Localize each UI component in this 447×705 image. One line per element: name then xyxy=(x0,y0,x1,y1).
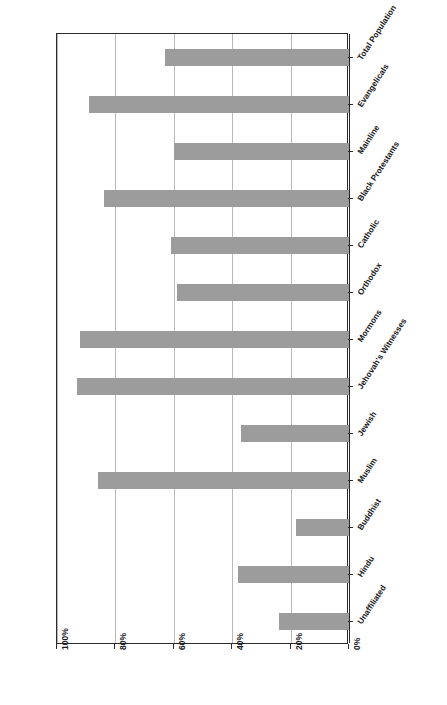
bar xyxy=(241,425,349,442)
value-tick xyxy=(290,644,291,649)
category-label-text: Catholic xyxy=(356,217,381,249)
category-label-text: Evangelicals xyxy=(356,62,391,109)
bar xyxy=(296,519,349,536)
bar xyxy=(77,378,349,395)
category-tick xyxy=(348,198,353,199)
bar xyxy=(165,49,349,66)
value-tick xyxy=(231,644,232,649)
category-label-text: Hindu xyxy=(356,554,376,578)
bar-chart-plot-area xyxy=(56,33,348,644)
category-tick xyxy=(348,292,353,293)
category-label-text: Mainline xyxy=(356,123,381,155)
value-label-text: 40% xyxy=(235,633,245,650)
category-label-text: Unaffiliated xyxy=(356,583,388,625)
category-tick xyxy=(348,621,353,622)
category-label-text: Buddhist xyxy=(356,497,383,532)
category-tick xyxy=(348,386,353,387)
bar xyxy=(177,284,349,301)
category-tick xyxy=(348,433,353,434)
value-label-text: 0% xyxy=(352,638,362,650)
bar xyxy=(279,613,349,630)
category-label-text: Jewish xyxy=(356,410,378,438)
gridline-100 xyxy=(57,34,58,643)
category-label-text: Total Population xyxy=(356,3,398,61)
category-tick xyxy=(348,339,353,340)
category-tick xyxy=(348,104,353,105)
bar xyxy=(89,96,349,113)
category-tick xyxy=(348,151,353,152)
value-label-text: 100% xyxy=(60,628,70,650)
category-tick xyxy=(348,574,353,575)
value-tick xyxy=(114,644,115,649)
value-tick xyxy=(56,644,57,649)
value-label-text: 80% xyxy=(118,633,128,650)
value-label-text: 20% xyxy=(294,633,304,650)
bar xyxy=(238,566,349,583)
category-label-text: Orthodox xyxy=(356,261,384,297)
category-label-text: Mormons xyxy=(356,308,384,344)
category-axis-ticks xyxy=(348,33,354,644)
category-label-text: Muslim xyxy=(356,456,379,485)
source-note: Source: Pew U.S. Religious Landscape Sur… xyxy=(399,0,447,705)
category-tick xyxy=(348,480,353,481)
bar xyxy=(174,143,349,160)
bar xyxy=(171,237,349,254)
bar xyxy=(80,331,349,348)
bar xyxy=(104,190,349,207)
value-axis-ticks xyxy=(56,644,348,650)
value-tick xyxy=(173,644,174,649)
value-label-text: 60% xyxy=(177,633,187,650)
bar xyxy=(98,472,349,489)
category-tick xyxy=(348,57,353,58)
category-tick xyxy=(348,245,353,246)
category-tick xyxy=(348,527,353,528)
figure-title: Figure 5.2: Is the Bible/Your Holy Scrip… xyxy=(0,0,48,705)
value-tick xyxy=(348,644,349,649)
